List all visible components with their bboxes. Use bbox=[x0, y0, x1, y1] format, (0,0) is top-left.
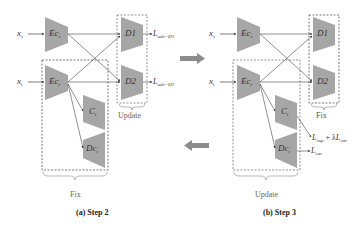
input-target-label: xt bbox=[209, 77, 214, 87]
encoder-source-label: Ecs bbox=[49, 29, 60, 39]
input-source-label: xs bbox=[17, 29, 23, 39]
step-back-arrow bbox=[184, 140, 209, 151]
update-group-label: Update bbox=[118, 112, 141, 120]
fix-group-label: Fix bbox=[316, 112, 327, 120]
discriminator1-label: D1 bbox=[125, 29, 136, 38]
panel-step2 bbox=[28, 15, 152, 180]
update-brace bbox=[234, 172, 298, 180]
decoder-label: Dct bbox=[278, 144, 290, 154]
caption-step2: (a) Step 2 bbox=[76, 209, 108, 217]
fix-brace bbox=[43, 172, 107, 180]
classifier-label: Ct bbox=[281, 107, 288, 117]
discriminator1-label: D1 bbox=[317, 29, 328, 38]
fix-brace bbox=[311, 104, 337, 110]
discriminator2-label: D2 bbox=[317, 77, 328, 86]
decoder-label: Dct bbox=[86, 144, 98, 154]
caption-step3: (b) Step 3 bbox=[263, 209, 296, 217]
fix-group-label: Fix bbox=[70, 191, 81, 199]
discriminator2-label: D2 bbox=[125, 77, 136, 86]
update-group-label: Update bbox=[255, 191, 278, 199]
input-target-label: xt bbox=[17, 77, 22, 87]
update-brace bbox=[119, 104, 145, 110]
classifier-label: Ct bbox=[89, 107, 96, 117]
encoder-source-label: Ecs bbox=[241, 29, 252, 39]
encoder-target-label: Ect bbox=[241, 77, 252, 87]
loss-sup-var: Lsup + λLvar bbox=[312, 134, 347, 143]
loss-adv-d2: Ladv−D2 bbox=[153, 78, 174, 87]
loss-adv-d1: Ladv−D1 bbox=[153, 30, 174, 39]
encoder-target-label: Ect bbox=[49, 77, 60, 87]
step-forward-arrow bbox=[180, 53, 205, 64]
loss-var: Lvar bbox=[311, 147, 322, 156]
input-source-label: xs bbox=[209, 29, 215, 39]
